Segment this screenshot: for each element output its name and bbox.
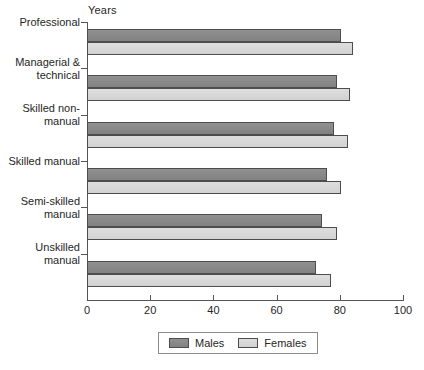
legend-item-males[interactable]: Males xyxy=(169,337,224,349)
x-axis-tick xyxy=(213,295,214,301)
category-label: Managerial &technical xyxy=(2,56,80,82)
bar-females xyxy=(87,135,348,148)
y-axis-tick xyxy=(81,161,87,162)
x-axis-tick-label: 80 xyxy=(320,304,360,316)
x-axis-tick xyxy=(340,295,341,301)
category-label-line: Managerial & xyxy=(2,56,80,69)
bar-males xyxy=(87,75,337,88)
category-label: Skilled non-manual xyxy=(2,102,80,128)
category-label-line: Semi-skilled xyxy=(2,195,80,208)
plot-area xyxy=(87,22,403,300)
x-axis-tick-label: 40 xyxy=(193,304,233,316)
category-label: Professional xyxy=(2,16,80,29)
y-axis-tick xyxy=(81,207,87,208)
bar-males xyxy=(87,122,334,135)
legend-swatch-males-icon xyxy=(169,338,189,348)
bar-males xyxy=(87,168,327,181)
chart-legend: MalesFemales xyxy=(158,332,318,354)
x-axis-tick-label: 60 xyxy=(257,304,297,316)
bar-females xyxy=(87,274,331,287)
category-label-line: technical xyxy=(2,69,80,82)
bar-chart: Years ProfessionalManagerial &technicalS… xyxy=(0,0,424,370)
category-label: Semi-skilledmanual xyxy=(2,195,80,221)
category-label-line: Skilled manual xyxy=(2,155,80,168)
category-label: Skilled manual xyxy=(2,155,80,168)
category-label: Unskilledmanual xyxy=(2,241,80,267)
x-axis-tick xyxy=(87,295,88,301)
x-axis-tick xyxy=(277,295,278,301)
category-label-line: Skilled non- xyxy=(2,102,80,115)
category-label-line: Professional xyxy=(2,16,80,29)
x-axis-tick xyxy=(150,295,151,301)
bar-females xyxy=(87,227,337,240)
legend-label: Females xyxy=(264,337,306,349)
y-axis-tick xyxy=(81,254,87,255)
x-axis-tick-label: 0 xyxy=(67,304,107,316)
y-axis-tick xyxy=(81,22,87,23)
x-axis-tick-label: 20 xyxy=(130,304,170,316)
x-axis-tick-label: 100 xyxy=(383,304,423,316)
bar-males xyxy=(87,29,341,42)
x-axis-line xyxy=(87,300,404,301)
bar-females xyxy=(87,88,350,101)
axis-title-years: Years xyxy=(88,4,117,16)
legend-item-females[interactable]: Females xyxy=(238,337,306,349)
category-label-line: manual xyxy=(2,254,80,267)
y-axis-tick xyxy=(81,68,87,69)
category-label-line: manual xyxy=(2,115,80,128)
category-label-line: Unskilled xyxy=(2,241,80,254)
legend-label: Males xyxy=(195,337,224,349)
category-label-line: manual xyxy=(2,208,80,221)
category-labels: ProfessionalManagerial &technicalSkilled… xyxy=(0,0,80,278)
legend-swatch-females-icon xyxy=(238,338,258,348)
y-axis-tick xyxy=(81,115,87,116)
bar-females xyxy=(87,181,341,194)
bar-males xyxy=(87,261,316,274)
bar-females xyxy=(87,42,353,55)
bar-males xyxy=(87,214,322,227)
x-axis-tick xyxy=(403,295,404,301)
